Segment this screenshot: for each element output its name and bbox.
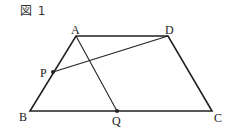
label-a: A [71, 23, 80, 37]
segment-aq [76, 36, 117, 111]
point-p-marker [51, 70, 55, 74]
point-q-marker [115, 109, 119, 113]
trapezoid-abcd [30, 36, 212, 111]
segment-pd [53, 36, 168, 72]
label-c: C [214, 111, 222, 125]
trapezoid-diagram: A D B C P Q [0, 0, 235, 136]
label-p: P [40, 66, 47, 80]
label-b: B [19, 110, 27, 124]
label-d: D [165, 23, 174, 37]
label-q: Q [112, 114, 121, 128]
trapezoid-outline [30, 36, 212, 111]
